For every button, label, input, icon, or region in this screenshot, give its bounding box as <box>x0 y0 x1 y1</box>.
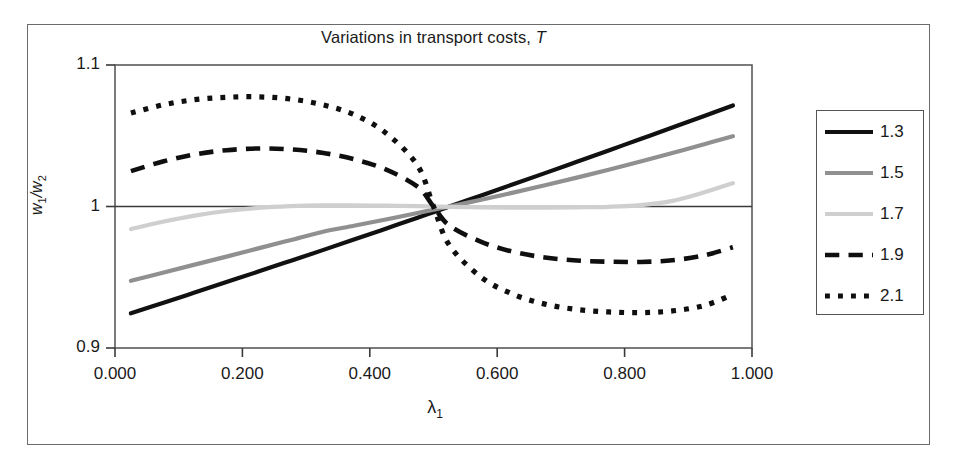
x-tick-label: 0.200 <box>197 364 287 384</box>
y-axis-label-w2: w <box>28 181 45 193</box>
chart-legend: 1.31.51.71.92.1 <box>816 110 924 315</box>
legend-label: 1.7 <box>880 204 904 224</box>
legend-item[interactable]: 1.3 <box>817 111 925 152</box>
x-tick-label: 0.000 <box>70 364 160 384</box>
x-tick-label: 1.000 <box>707 364 797 384</box>
y-axis-label-sub2: 2 <box>36 175 48 181</box>
x-tick-label: 0.400 <box>325 364 415 384</box>
legend-swatch-1-9 <box>824 248 874 262</box>
x-axis-label-sub: 1 <box>436 407 443 421</box>
y-tick-label: 1.1 <box>40 54 100 74</box>
legend-item[interactable]: 2.1 <box>817 275 925 316</box>
y-tick-label: 0.9 <box>40 337 100 357</box>
legend-label: 1.3 <box>880 122 904 142</box>
legend-item[interactable]: 1.5 <box>817 152 925 193</box>
legend-item[interactable]: 1.7 <box>817 193 925 234</box>
x-axis-label: λ1 <box>370 397 500 421</box>
legend-item[interactable]: 1.9 <box>817 234 925 275</box>
y-tick-label: 1 <box>40 196 100 216</box>
legend-swatch-1-7 <box>824 207 874 221</box>
legend-label: 1.9 <box>880 245 904 265</box>
x-tick-label: 0.800 <box>580 364 670 384</box>
x-axis-label-lambda: λ <box>427 397 436 417</box>
legend-label: 2.1 <box>880 286 904 306</box>
legend-swatch-2-1 <box>824 289 874 303</box>
chart-figure: Variations in transport costs, T w1/w2 λ… <box>0 0 958 473</box>
legend-label: 1.5 <box>880 163 904 183</box>
legend-swatch-1-3 <box>824 125 874 139</box>
legend-swatch-1-5 <box>824 166 874 180</box>
x-tick-label: 0.600 <box>452 364 542 384</box>
